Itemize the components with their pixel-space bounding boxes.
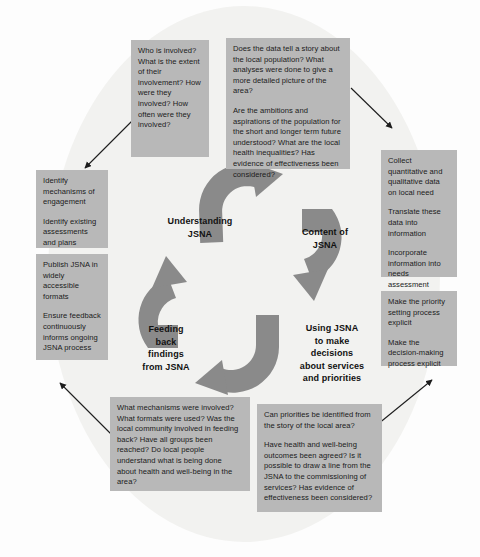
- center-label-line: findings: [124, 348, 208, 361]
- box-right-upper-actions: Collect quantitative and qualitative dat…: [381, 150, 457, 277]
- box-paragraph: Have health and well-being outcomes been…: [264, 440, 375, 504]
- box-paragraph: Ensure feedback continuously informs ong…: [43, 311, 101, 353]
- center-label-line: about services: [286, 360, 378, 373]
- box-top-left-questions: Who is involved? What is the extent of t…: [131, 40, 209, 157]
- center-label-understanding-jsna: Understanding JSNA: [150, 215, 250, 240]
- box-left-upper-actions: Identify mechanisms of engagement Identi…: [36, 170, 108, 248]
- cycle-arrow-left-head: [152, 256, 187, 288]
- box-paragraph: Who is involved? What is the extent of t…: [138, 46, 202, 131]
- box-paragraph: Make the priority setting process explic…: [388, 297, 450, 329]
- box-paragraph: Identify existing assessments and plans: [43, 217, 101, 249]
- center-label-using-jsna: Using JSNA to make decisions about servi…: [286, 322, 378, 385]
- box-bottom-right-questions: Can priorities be identified from the st…: [257, 404, 382, 512]
- center-label-line: to make: [286, 335, 378, 348]
- diagram-canvas: Who is involved? What is the extent of t…: [0, 0, 480, 557]
- center-label-line: JSNA: [150, 228, 250, 241]
- center-label-line: decisions: [286, 347, 378, 360]
- box-paragraph: Can priorities be identified from the st…: [264, 410, 375, 431]
- box-paragraph: Make the decision-making process explici…: [388, 338, 450, 370]
- center-label-content-of-jsna: Content of JSNA: [285, 226, 365, 251]
- center-label-line: back: [124, 336, 208, 349]
- center-label-line: from JSNA: [124, 361, 208, 374]
- center-label-line: Feeding: [124, 323, 208, 336]
- box-paragraph: Collect quantitative and qualitative dat…: [388, 156, 450, 198]
- box-paragraph: Are the ambitions and aspirations of the…: [233, 106, 343, 180]
- center-label-feeding-back-findings: Feeding back findings from JSNA: [124, 323, 208, 373]
- box-paragraph: What mechanisms were involved? What form…: [117, 403, 243, 488]
- box-paragraph: Incorporate information into needs asses…: [388, 248, 450, 290]
- box-paragraph: Translate these data into information: [388, 207, 450, 239]
- center-label-line: Using JSNA: [286, 322, 378, 335]
- box-left-lower-actions: Publish JSNA in widely accessible format…: [36, 254, 108, 360]
- center-label-line: Content of: [285, 226, 365, 239]
- center-label-line: and priorities: [286, 372, 378, 385]
- center-label-line: Understanding: [150, 215, 250, 228]
- box-paragraph: Does the data tell a story about the loc…: [233, 44, 343, 97]
- box-right-lower-actions: Make the priority setting process explic…: [381, 291, 457, 366]
- box-bottom-left-questions: What mechanisms were involved? What form…: [110, 397, 250, 491]
- box-paragraph: Publish JSNA in widely accessible format…: [43, 260, 101, 302]
- cycle-arrow-right-head: [293, 269, 328, 301]
- box-paragraph: Identify mechanisms of engagement: [43, 176, 101, 208]
- box-top-right-questions: Does the data tell a story about the loc…: [226, 38, 350, 169]
- center-label-line: JSNA: [285, 239, 365, 252]
